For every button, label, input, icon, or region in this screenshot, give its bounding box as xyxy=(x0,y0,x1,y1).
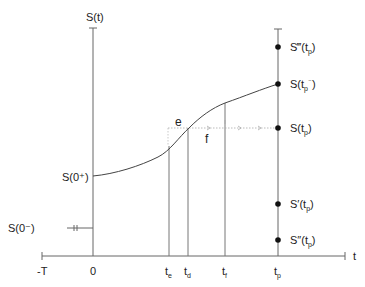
s-axis-label: S(t) xyxy=(86,11,104,23)
dot-s-tp xyxy=(275,125,281,131)
state-diagram: S(t) t S(0⁺) S(0⁻) e f -T 0 te td tf tp … xyxy=(0,0,365,287)
dot-s-prime xyxy=(275,201,281,207)
tick-tf: tf xyxy=(222,265,227,279)
tick-zero: 0 xyxy=(90,265,96,277)
tick-tp: tp xyxy=(274,265,281,280)
tick-td: td xyxy=(184,265,191,279)
label-s-double-prime: S″(tp) xyxy=(290,234,316,249)
s0-minus-label: S(0⁻) xyxy=(8,222,35,234)
dot-s-triple-prime xyxy=(275,44,281,50)
label-s-tp-minus: S(tp⁻) xyxy=(290,78,316,93)
s0-plus-label: S(0⁺) xyxy=(62,171,89,183)
tick-neg-t: -T xyxy=(37,265,48,277)
s-curve xyxy=(93,84,278,176)
t-axis-label: t xyxy=(353,250,356,262)
point-e-label: e xyxy=(175,115,182,129)
point-f-label: f xyxy=(205,132,209,146)
label-s-tp: S(tp) xyxy=(290,122,312,137)
tick-te: te xyxy=(165,265,172,279)
label-s-prime: S′(tp) xyxy=(290,198,314,213)
dot-s-tp-minus xyxy=(275,81,281,87)
dot-s-double-prime xyxy=(275,237,281,243)
label-s-triple-prime: S‴(tp) xyxy=(290,41,316,56)
